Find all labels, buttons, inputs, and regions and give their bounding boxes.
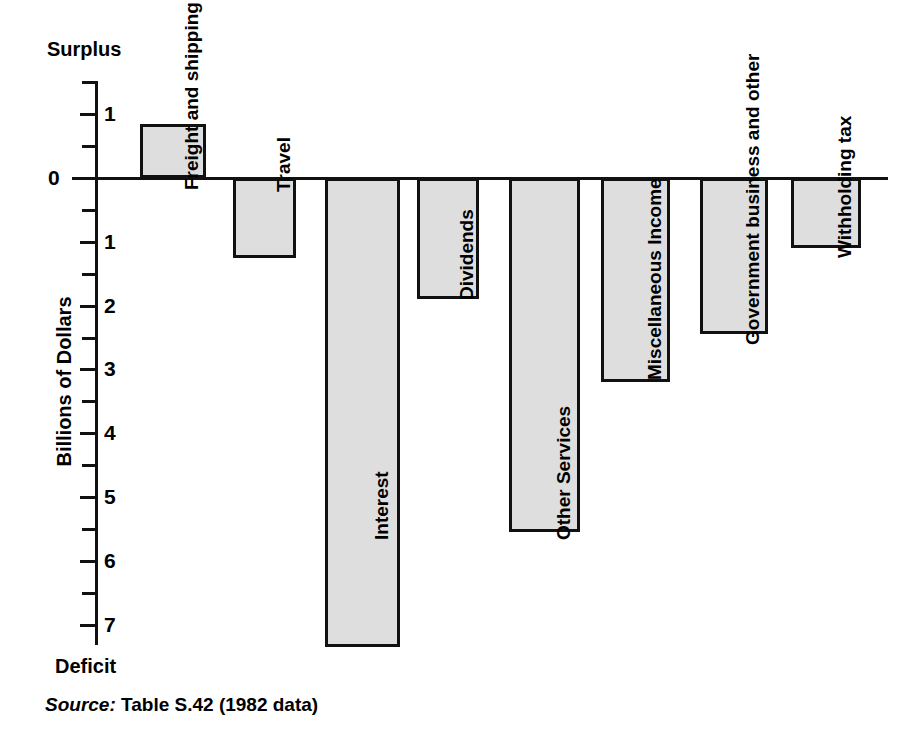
y-axis-minor-tick	[82, 592, 96, 595]
y-axis-title: Billions of Dollars	[53, 282, 76, 482]
y-axis-tick-label: 3	[104, 358, 116, 379]
bar-category-label: Government business and other	[743, 54, 762, 345]
y-axis-tick-label: 2	[104, 295, 116, 316]
bar-category-label: Dividends	[457, 209, 476, 300]
y-axis-minor-tick	[82, 81, 96, 84]
y-axis-minor-tick	[82, 400, 96, 403]
y-axis-tick-label: 0	[48, 167, 60, 188]
bar-category-label: Freight and shipping	[182, 2, 201, 190]
y-axis-minor-tick	[82, 273, 96, 276]
y-axis-minor-tick	[82, 528, 96, 531]
source-keyword: Source:	[45, 694, 116, 715]
y-axis-tick-label: 7	[104, 614, 116, 635]
plot-area: 101234567 Surplus Deficit Billions of Do…	[0, 0, 898, 741]
surplus-axis-annotation: Surplus	[47, 38, 121, 61]
bar-category-label: Interest	[372, 471, 391, 540]
bar-chart: 101234567 Surplus Deficit Billions of Do…	[0, 0, 898, 741]
y-axis-tick-label: 1	[104, 231, 116, 252]
bar-category-label: Other Services	[554, 406, 573, 540]
y-axis-minor-tick	[82, 337, 96, 340]
y-axis-tick-label: 4	[104, 422, 116, 443]
y-axis-major-tick	[80, 560, 96, 563]
y-axis-major-tick	[80, 368, 96, 371]
y-axis-minor-tick	[82, 464, 96, 467]
y-axis-tick-label: 5	[104, 486, 116, 507]
y-axis-major-tick	[80, 624, 96, 627]
source-reference: Table S.42 (1982 data)	[121, 694, 318, 715]
y-axis-major-tick	[80, 241, 96, 244]
y-axis-major-tick	[80, 305, 96, 308]
y-axis-major-tick	[80, 432, 96, 435]
y-axis-major-tick	[80, 113, 96, 116]
y-axis-major-tick	[80, 496, 96, 499]
bar-category-label: Miscellaneous Income	[645, 178, 664, 380]
y-axis-minor-tick	[82, 145, 96, 148]
y-axis-minor-tick	[82, 209, 96, 212]
bar	[325, 178, 400, 647]
bar-category-label: Withholding tax	[835, 116, 854, 258]
y-axis-tick-label: 6	[104, 550, 116, 571]
source-note: Source: Table S.42 (1982 data)	[45, 694, 318, 716]
y-axis-tick-label: 1	[104, 103, 116, 124]
y-axis-zero-tick	[72, 177, 98, 180]
bar-category-label: Travel	[274, 137, 293, 192]
deficit-axis-annotation: Deficit	[55, 655, 116, 678]
